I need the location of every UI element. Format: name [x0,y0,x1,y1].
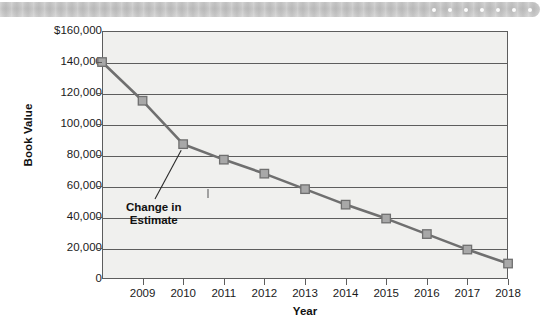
x-axis-tick [224,279,225,285]
y-axis-tick-label: $160,000 [54,25,102,37]
x-axis-tick-label: 2014 [323,287,369,299]
change-in-estimate-annotation: Change in Estimate [126,201,182,227]
banner-dot [496,8,500,12]
gridline-horizontal [103,156,507,157]
gridline-horizontal [103,94,507,95]
x-axis-tick-label: 2009 [120,287,166,299]
gridline-horizontal [103,125,507,126]
top-banner [0,2,540,17]
banner-dot [480,8,484,12]
x-axis-tick [467,279,468,285]
banner-dot-row [432,2,532,17]
x-axis-tick [427,279,428,285]
plot-area [102,31,508,279]
y-axis-tick [96,62,102,63]
x-axis-tick-label: 2018 [485,287,531,299]
y-axis-tick [96,124,102,125]
x-axis-tick-label: 2012 [241,287,287,299]
x-axis-tick [305,279,306,285]
banner-dot [448,8,452,12]
banner-dot [464,8,468,12]
banner-dot [512,8,516,12]
y-axis-tick [96,248,102,249]
x-axis-tick [183,279,184,285]
gridline-horizontal [103,63,507,64]
gridline-horizontal [103,249,507,250]
x-axis-tick-label: 2016 [404,287,450,299]
x-axis-tick-label: 2015 [363,287,409,299]
chart-figure: Book Value $160,000140,000120,000100,000… [0,17,552,327]
x-axis-tick [346,279,347,285]
x-axis-tick [386,279,387,285]
x-axis-tick-label: 2017 [444,287,490,299]
x-axis-tick-label: 2011 [201,287,247,299]
stray-ink-mark [207,189,209,198]
y-axis-tick [96,217,102,218]
y-axis-tick [96,186,102,187]
x-axis-tick [508,279,509,285]
gridline-horizontal [103,187,507,188]
banner-dot [432,8,436,12]
banner-dot [528,8,532,12]
x-axis-tick-label: 2010 [160,287,206,299]
x-axis-tick-label: 2013 [282,287,328,299]
y-axis-tick [96,155,102,156]
x-axis-tick [264,279,265,285]
y-axis-tick [96,93,102,94]
x-axis-title: Year [102,305,508,317]
x-axis-tick [143,279,144,285]
